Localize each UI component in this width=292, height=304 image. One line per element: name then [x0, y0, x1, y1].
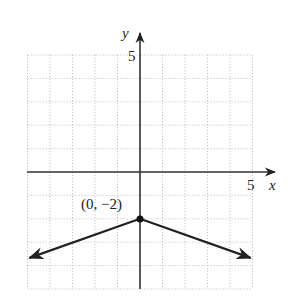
vertex-point	[137, 216, 144, 223]
x-tick-label: 5	[247, 177, 255, 193]
vertex-label: (0, −2)	[81, 196, 122, 213]
absolute-value-graph: y 5 5 x (0, −2)	[0, 0, 292, 304]
left-ray	[30, 219, 141, 258]
y-tick-label: 5	[128, 48, 136, 64]
right-ray	[140, 219, 251, 258]
y-axis-label: y	[120, 25, 129, 41]
x-axis-label: x	[268, 177, 276, 193]
